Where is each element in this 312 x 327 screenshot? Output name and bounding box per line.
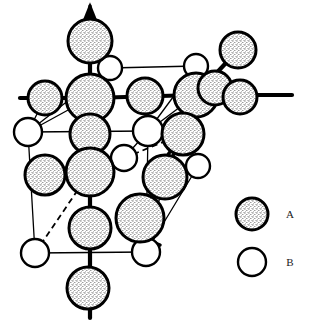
atom-a-a13	[143, 155, 187, 199]
legend-label-B: B	[286, 256, 293, 268]
structure-diagram-canvas: AB	[0, 0, 312, 327]
atom-a-a10	[162, 113, 204, 155]
atom-a-a2	[28, 81, 62, 115]
atom-b-b3	[14, 118, 42, 146]
atom-a-a8	[223, 80, 257, 114]
atom-b-b4	[133, 116, 163, 146]
atom-a-a15	[69, 207, 111, 249]
atom-a-a14	[116, 194, 164, 242]
atom-a-a12	[66, 148, 114, 196]
atom-b-b7	[21, 239, 49, 267]
atom-a-a11	[25, 155, 65, 195]
legend: AB	[236, 198, 294, 276]
atom-a-a16	[67, 267, 109, 309]
atom-a-a4	[127, 78, 163, 114]
atom-layer	[14, 19, 257, 309]
legend-label-A: A	[286, 208, 294, 220]
atom-a-a7	[220, 32, 256, 68]
atom-a-a1	[68, 19, 112, 63]
atom-b-b6	[186, 154, 210, 178]
legend-swatch-A	[236, 198, 268, 230]
crystal-structure-figure: AB	[0, 0, 312, 327]
legend-swatch-B	[238, 248, 266, 276]
